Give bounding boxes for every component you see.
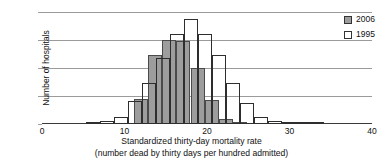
bar-1995 xyxy=(226,83,240,124)
bar-1995 xyxy=(296,122,310,124)
bar-1995 xyxy=(170,34,184,124)
bar-1995 xyxy=(268,121,282,124)
bar-1995 xyxy=(240,103,254,124)
bar-1995 xyxy=(254,117,268,124)
bar-1995 xyxy=(212,55,226,124)
histogram-chart: 0200400600800 010203040 Number of hospit… xyxy=(0,0,383,167)
x-tick-label: 10 xyxy=(110,126,140,136)
legend-label: 1995 xyxy=(356,28,375,41)
y-tick-mark xyxy=(38,124,42,125)
bar-1995 xyxy=(114,117,128,124)
y-axis-label: Number of hospitals xyxy=(41,30,51,106)
x-tick-label: 30 xyxy=(275,126,305,136)
bar-1995 xyxy=(100,121,114,124)
bar-1995 xyxy=(128,101,142,124)
bar-1995 xyxy=(156,58,170,124)
legend-swatch-icon xyxy=(344,31,352,39)
gridline xyxy=(42,12,372,13)
x-axis-label-line2: (number dead by thirty days per hundred … xyxy=(0,148,383,160)
x-tick-label: 0 xyxy=(27,126,57,136)
bar-1995 xyxy=(86,122,100,124)
bar-1995 xyxy=(282,122,296,124)
y-tick-mark xyxy=(38,12,42,13)
legend-label: 2006 xyxy=(356,13,375,26)
plot-area: 0200400600800 010203040 Number of hospit… xyxy=(42,12,372,124)
legend: 20061995 xyxy=(344,13,375,43)
x-axis-label: Standardized thirty-day mortality rate (… xyxy=(0,136,383,159)
legend-swatch-icon xyxy=(344,16,352,24)
bar-1995 xyxy=(198,34,212,124)
bar-1995 xyxy=(184,19,198,124)
legend-item-1995: 1995 xyxy=(344,28,375,41)
legend-item-2006: 2006 xyxy=(344,13,375,26)
x-tick-label: 40 xyxy=(357,126,383,136)
bar-1995 xyxy=(142,83,156,124)
bar-1995 xyxy=(310,122,324,124)
x-tick-label: 20 xyxy=(192,126,222,136)
x-axis-label-line1: Standardized thirty-day mortality rate xyxy=(0,136,383,148)
